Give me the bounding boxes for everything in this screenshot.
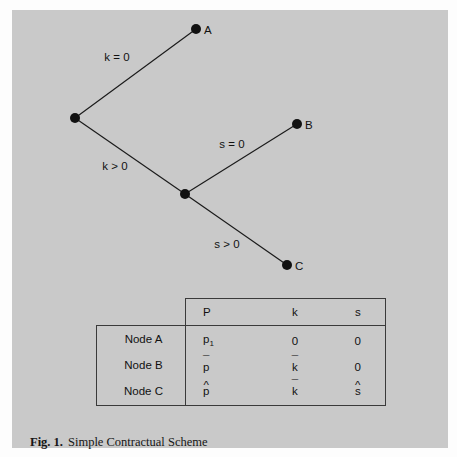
cell-a-k: 0 bbox=[259, 335, 330, 348]
cell-b-s: 0 bbox=[331, 361, 385, 374]
tree-node-C bbox=[282, 260, 292, 270]
matrix-box: P k s p1 0 0 p¯ k¯ 0 p^ k¯ s^ bbox=[185, 298, 386, 406]
tree-node-B bbox=[292, 119, 302, 129]
cell-c-s: s^ bbox=[331, 385, 385, 398]
column-header-k: k bbox=[259, 306, 330, 318]
tree-node-middle bbox=[180, 189, 190, 199]
tree-node-label-A: A bbox=[204, 24, 212, 36]
cell-a-s: 0 bbox=[331, 335, 385, 348]
table-row: p¯ k¯ 0 bbox=[186, 354, 385, 380]
row-label-box: Node A Node B Node C bbox=[96, 325, 191, 406]
tree-node-A bbox=[191, 24, 201, 34]
tree-node-label-B: B bbox=[305, 119, 313, 131]
row-label-node-b: Node B bbox=[97, 352, 190, 378]
table-row: p^ k¯ s^ bbox=[186, 378, 385, 404]
matrix-header-rule bbox=[186, 325, 385, 326]
matrix-header-row: P k s bbox=[186, 299, 385, 325]
tree-edge-label-middle-C: s > 0 bbox=[214, 238, 239, 250]
contract-tree-diagram: ABCk = 0k > 0s = 0s > 0 bbox=[12, 10, 448, 300]
tree-edge-label-middle-B: s = 0 bbox=[219, 138, 244, 150]
figure-caption: Fig. 1.Simple Contractual Scheme bbox=[30, 435, 208, 450]
column-header-s: s bbox=[331, 306, 385, 318]
tree-edge-label-root-A: k = 0 bbox=[104, 51, 129, 63]
column-header-p: P bbox=[186, 306, 259, 318]
cell-b-p: p¯ bbox=[186, 361, 259, 374]
cell-c-p: p^ bbox=[186, 385, 259, 398]
tree-edge-root-middle bbox=[75, 118, 185, 194]
caption-label: Fig. 1. bbox=[30, 435, 63, 449]
tree-edge-middle-B bbox=[185, 124, 297, 194]
tree-edge-root-A bbox=[75, 29, 196, 118]
tree-node-label-C: C bbox=[295, 260, 303, 272]
figure-panel: ABCk = 0k > 0s = 0s > 0 Node A Node B No… bbox=[12, 10, 448, 448]
row-label-node-a: Node A bbox=[97, 326, 190, 352]
tree-edge-middle-C bbox=[185, 194, 287, 265]
cell-a-p: p1 bbox=[186, 333, 259, 348]
tree-node-root bbox=[70, 113, 80, 123]
row-label-node-c: Node C bbox=[97, 378, 190, 404]
table-row: p1 0 0 bbox=[186, 328, 385, 354]
caption-text: Simple Contractual Scheme bbox=[68, 435, 208, 449]
cell-b-k: k¯ bbox=[259, 361, 330, 374]
tree-edge-label-root-middle: k > 0 bbox=[102, 160, 127, 172]
cell-c-k: k¯ bbox=[259, 385, 330, 398]
figure-root: ABCk = 0k > 0s = 0s > 0 Node A Node B No… bbox=[0, 0, 457, 457]
